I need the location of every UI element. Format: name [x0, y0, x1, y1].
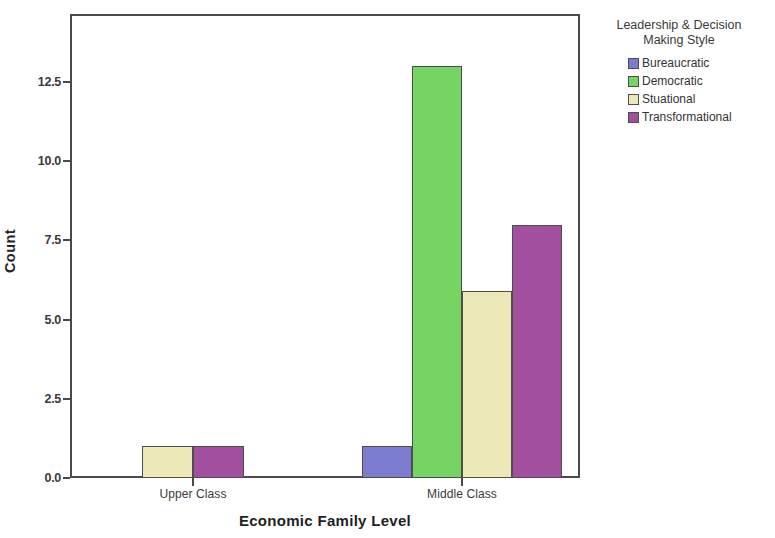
legend-title-line-1: Leadership & Decision — [588, 18, 770, 33]
bar — [193, 446, 244, 478]
bar — [412, 66, 462, 478]
y-axis-title: Count — [2, 196, 28, 306]
legend: Leadership & Decision Making Style Burea… — [588, 18, 774, 127]
bar — [462, 291, 512, 478]
y-axis-tick: 2.5 — [45, 392, 70, 406]
legend-item: Democratic — [628, 73, 774, 89]
x-axis-tick-mark — [192, 478, 194, 486]
legend-item: Bureaucratic — [628, 55, 774, 71]
y-axis-tick: 12.5 — [38, 75, 70, 89]
y-axis-tick: 7.5 — [45, 233, 70, 247]
legend-swatch — [628, 112, 639, 123]
legend-swatch — [628, 94, 639, 105]
legend-item: Transformational — [628, 109, 774, 125]
y-axis-tick-mark — [63, 398, 70, 400]
y-axis-tick: 5.0 — [45, 313, 70, 327]
legend-swatch — [628, 76, 639, 87]
legend-item-label: Democratic — [642, 75, 703, 88]
legend-item-label: Bureaucratic — [642, 57, 709, 70]
y-axis-tick-mark — [63, 239, 70, 241]
y-axis-tick-mark — [63, 81, 70, 83]
y-axis-tick-mark — [63, 477, 70, 479]
x-axis-tick-mark — [461, 478, 463, 486]
legend-title: Leadership & Decision Making Style — [588, 18, 770, 48]
plot-area — [70, 14, 580, 478]
legend-items: BureaucraticDemocraticStuationalTransfor… — [628, 55, 774, 125]
x-axis-tick-label: Middle Class — [402, 487, 522, 501]
legend-item: Stuational — [628, 91, 774, 107]
legend-swatch — [628, 58, 639, 69]
bar-chart-figure: 0.02.55.07.510.012.5 Count Upper ClassMi… — [0, 0, 775, 538]
y-axis-tick: 0.0 — [45, 471, 70, 485]
bar — [512, 225, 562, 478]
legend-title-line-2: Making Style — [588, 33, 770, 48]
y-axis-tick-mark — [63, 319, 70, 321]
x-axis-tick-label: Upper Class — [133, 487, 253, 501]
y-axis-tick-mark — [63, 160, 70, 162]
legend-item-label: Stuational — [642, 93, 695, 106]
y-axis-tick: 10.0 — [38, 154, 70, 168]
bar — [142, 446, 193, 478]
bar — [362, 446, 412, 478]
legend-item-label: Transformational — [642, 111, 732, 124]
x-axis-title: Economic Family Level — [70, 512, 580, 529]
